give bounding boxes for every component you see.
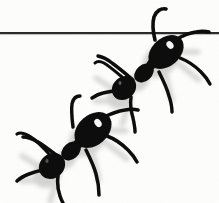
ants-illustration-canvas bbox=[0, 0, 219, 203]
ant-leading-head-highlight bbox=[119, 81, 122, 85]
ant-following-head-highlight bbox=[45, 159, 48, 163]
figure-root: Two black ants, shown from above, walkin… bbox=[0, 0, 219, 203]
